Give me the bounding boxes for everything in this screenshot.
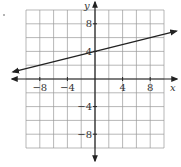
x-axis-label: x (170, 82, 176, 93)
y-tick-label: −4 (77, 101, 92, 112)
x-tick-label: 4 (119, 82, 125, 93)
stray-mark (3, 14, 5, 16)
y-tick-label: 8 (86, 18, 92, 29)
x-tick-label: 8 (147, 82, 153, 93)
x-tick-label: −8 (32, 82, 47, 93)
y-axis-label: y (83, 0, 90, 11)
coordinate-plane: −8−44884−4−8 x y (0, 0, 181, 167)
y-tick-label: 4 (86, 46, 92, 57)
y-tick-label: −8 (77, 129, 92, 140)
x-tick-label: −4 (60, 82, 75, 93)
